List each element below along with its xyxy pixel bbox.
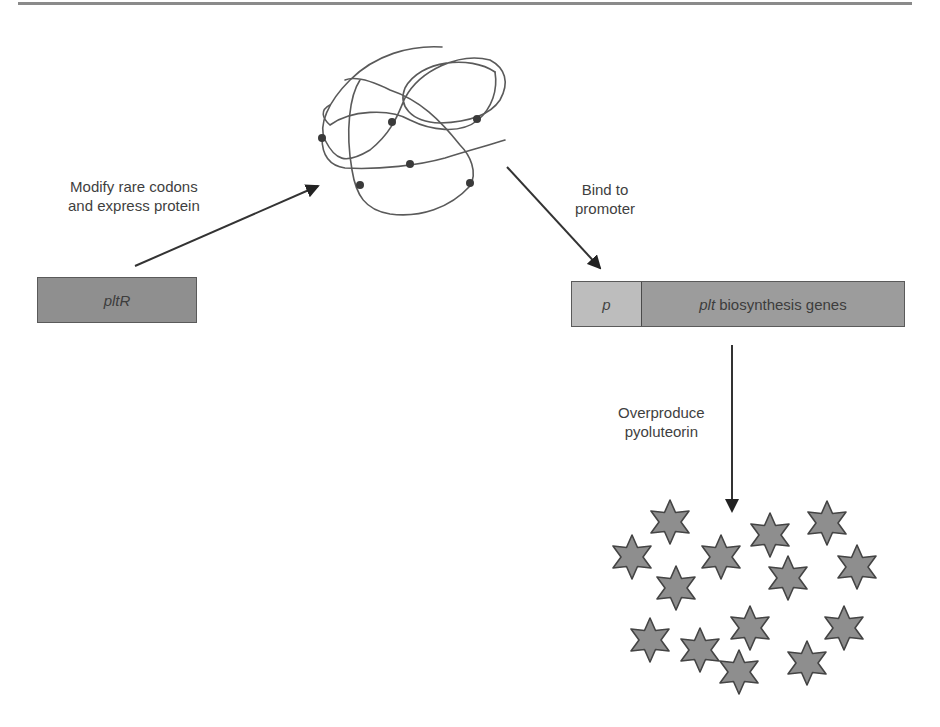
label-bind-promoter: Bind to promoter (575, 180, 635, 218)
promoter-label: p (602, 296, 610, 313)
gene-pltR-box: pltR (37, 277, 197, 323)
protein-chain-icon (322, 47, 505, 215)
label-line: Modify rare codons (68, 177, 200, 196)
operon-italic-label: plt (699, 296, 715, 313)
label-modify-codons: Modify rare codons and express protein (68, 177, 200, 215)
biosynthesis-genes-segment: plt biosynthesis genes (642, 282, 904, 326)
label-line: Bind to (575, 180, 635, 199)
promoter-segment: p (572, 282, 642, 326)
plt-operon-box: p plt biosynthesis genes (571, 281, 905, 327)
label-line: promoter (575, 199, 635, 218)
gene-pltR-label: pltR (104, 292, 131, 309)
modified-residue-dots (318, 115, 481, 189)
label-line: Overproduce (618, 403, 705, 422)
pyoluteorin-stars (613, 500, 876, 694)
operon-label: biosynthesis genes (719, 296, 847, 313)
label-line: and express protein (68, 196, 200, 215)
label-overproduce: Overproduce pyoluteorin (618, 403, 705, 441)
label-line: pyoluteorin (618, 422, 705, 441)
diagram-canvas (0, 0, 940, 727)
